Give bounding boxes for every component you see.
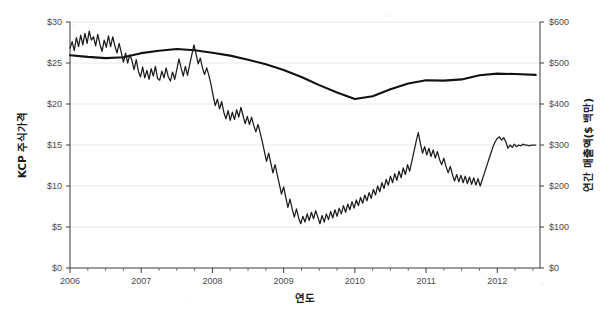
- x-axis-tick-label: 2010: [345, 276, 365, 286]
- y-axis-right-tick-label: $300: [549, 140, 569, 150]
- x-axis-tick-label: 2011: [416, 276, 435, 286]
- y-axis-right-tick-label: $200: [549, 181, 569, 191]
- y-axis-left-tick-label: $15: [47, 140, 62, 150]
- y-axis-right-tick-label: $0: [549, 263, 559, 273]
- y-axis-right-tick-label: $600: [549, 17, 569, 27]
- y-axis-left-tick-label: $25: [47, 58, 62, 68]
- y-axis-left-tick-label: $5: [52, 222, 62, 232]
- y-axis-right-title: 연간 매출액($ 백만): [582, 98, 594, 192]
- y-axis-left-title: KCP 주식가격: [16, 112, 28, 179]
- y-axis-left-tick-label: $20: [47, 99, 62, 109]
- y-axis-left-tick-label: $10: [47, 181, 62, 191]
- x-axis-tick-label: 2009: [274, 276, 294, 286]
- y-axis-right-tick-label: $500: [549, 58, 569, 68]
- x-axis-tick-label: 2007: [131, 276, 151, 286]
- x-axis-tick-label: 2012: [487, 276, 507, 286]
- x-axis-tick-label: 2006: [60, 276, 80, 286]
- y-axis-left-tick-label: $0: [52, 263, 62, 273]
- dual-axis-line-chart: $0$5$10$15$20$25$30 $0$100$200$300$400$5…: [0, 0, 616, 312]
- y-axis-right-tick-label: $100: [549, 222, 569, 232]
- y-axis-right-tick-label: $400: [549, 99, 569, 109]
- x-axis-tick-label: 2008: [202, 276, 222, 286]
- chart-figure: $0$5$10$15$20$25$30 $0$100$200$300$400$5…: [0, 0, 616, 312]
- x-axis-title: 연도: [295, 292, 315, 304]
- chart-background: [0, 0, 616, 312]
- y-axis-left-tick-label: $30: [47, 17, 62, 27]
